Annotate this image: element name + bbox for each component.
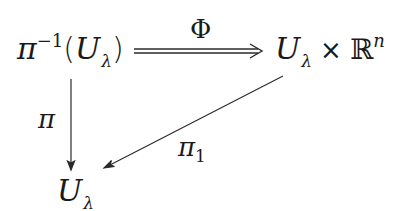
lambda-subscript: λ <box>83 193 94 211</box>
phi-label: Φ <box>190 16 211 42</box>
pi-arrow <box>68 79 75 170</box>
one-subscript: 1 <box>195 146 206 166</box>
node-product: Uλ×ℝn <box>275 34 385 64</box>
pi-label: π <box>38 106 55 132</box>
pi-symbol: π <box>178 132 195 162</box>
n-superscript: n <box>373 30 385 51</box>
lambda-subscript: λ <box>101 51 112 71</box>
u-symbol: U <box>75 31 100 66</box>
lambda-subscript: λ <box>301 51 312 71</box>
u-symbol: U <box>57 173 82 208</box>
reals-symbol: ℝ <box>350 33 373 66</box>
phi-arrow <box>134 44 262 58</box>
u-symbol: U <box>275 31 300 66</box>
pi-symbol: π <box>17 31 37 66</box>
node-preimage: π−1(Uλ) <box>17 34 124 64</box>
open-paren: ( <box>63 31 75 66</box>
close-paren: ) <box>112 31 124 66</box>
times-operator: × <box>320 35 342 65</box>
node-base: Uλ <box>57 176 94 206</box>
inverse-superscript: −1 <box>37 30 64 51</box>
pi1-label: π1 <box>178 134 206 160</box>
